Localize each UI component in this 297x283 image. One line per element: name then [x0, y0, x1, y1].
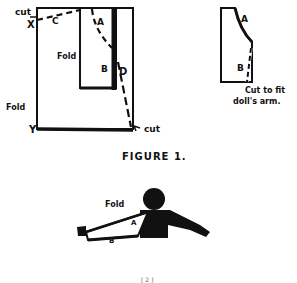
- label-fold-outer: Fold: [6, 103, 25, 112]
- arm-label-fold: Fold: [105, 200, 124, 209]
- label-y: Y: [29, 124, 36, 135]
- label-d: D: [119, 66, 127, 77]
- label-c: C: [52, 16, 59, 26]
- caption-line2: doll's arm.: [233, 97, 280, 106]
- label-x: X: [27, 19, 35, 30]
- label-cut-top: cut: [15, 7, 31, 17]
- label-b-right: B: [237, 63, 244, 73]
- arm-label-b: B: [109, 237, 114, 245]
- arm-label-a: A: [131, 219, 136, 227]
- label-fold-inner: Fold: [57, 52, 76, 61]
- label-cut-bottom: cut: [144, 124, 160, 134]
- caption-line1: Cut to fit: [245, 86, 285, 95]
- figure-title: FIGURE 1.: [122, 151, 187, 162]
- label-a-left: A: [97, 17, 104, 27]
- page-number: [ 2 ]: [141, 276, 153, 283]
- label-a-right: A: [241, 14, 248, 24]
- label-b-left: B: [101, 64, 108, 74]
